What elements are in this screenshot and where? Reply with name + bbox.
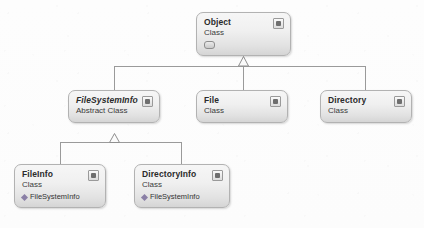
class-box-directoryinfo[interactable]: DirectoryInfoClassFileSystemInfo	[134, 164, 230, 208]
class-box-filesysteminfo[interactable]: FileSystemInfoAbstract Class	[68, 90, 160, 123]
collapse-chevron-glyph	[91, 173, 96, 178]
collapse-chevron-icon[interactable]	[142, 96, 153, 107]
class-kind-label: Class	[204, 106, 280, 116]
collapse-chevron-glyph	[276, 21, 281, 26]
class-box-directory[interactable]: DirectoryClass	[320, 90, 412, 123]
collapse-chevron-icon[interactable]	[273, 18, 284, 29]
collapse-chevron-glyph	[273, 99, 278, 104]
method-marker-icon	[21, 193, 28, 200]
class-member-row[interactable]: FileSystemInfo	[142, 192, 222, 202]
collapse-chevron-icon[interactable]	[394, 96, 405, 107]
collapse-chevron-icon[interactable]	[88, 170, 99, 181]
class-name: DirectoryInfo	[142, 169, 222, 179]
collapse-chevron-glyph	[215, 173, 220, 178]
class-name: File	[204, 95, 280, 105]
class-kind-label: Class	[204, 28, 283, 38]
collapse-chevron-icon[interactable]	[270, 96, 281, 107]
class-name: FileInfo	[22, 169, 98, 179]
class-box-object[interactable]: ObjectClass	[196, 12, 291, 56]
class-member-label: FileSystemInfo	[150, 192, 200, 202]
class-kind-label: Abstract Class	[76, 106, 152, 116]
class-name: FileSystemInfo	[76, 95, 152, 105]
collapse-chevron-glyph	[145, 99, 150, 104]
class-name: Directory	[328, 95, 404, 105]
class-kind-label: Class	[22, 180, 98, 190]
class-name: Object	[204, 17, 283, 27]
class-member-label: FileSystemInfo	[30, 192, 80, 202]
method-marker-icon	[141, 193, 148, 200]
class-box-fileinfo[interactable]: FileInfoClassFileSystemInfo	[14, 164, 106, 208]
collapse-chevron-glyph	[397, 99, 402, 104]
class-kind-label: Class	[328, 106, 404, 116]
interface-lollipop-icon	[204, 41, 215, 49]
class-kind-label: Class	[142, 180, 222, 190]
collapse-chevron-icon[interactable]	[212, 170, 223, 181]
class-box-file[interactable]: FileClass	[196, 90, 288, 123]
class-member-row[interactable]: FileSystemInfo	[22, 192, 98, 202]
